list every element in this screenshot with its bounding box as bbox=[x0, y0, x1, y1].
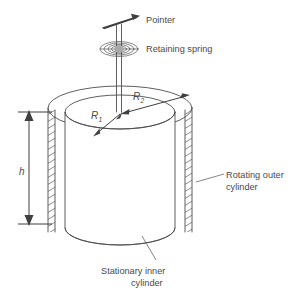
vertical-shaft bbox=[117, 24, 122, 112]
outer-wall-section-left bbox=[42, 106, 62, 251]
outer-radius-symbol-group: R 2 bbox=[133, 91, 145, 104]
outer-radius-symbol: R bbox=[133, 91, 140, 102]
inner-cylinder-body bbox=[65, 112, 175, 245]
inner-radius-symbol-group: R 1 bbox=[91, 110, 103, 123]
outer-wall-section-right bbox=[179, 106, 199, 251]
inner-radius-subscript: 1 bbox=[99, 116, 103, 123]
retaining-spring-label: Retaining spring bbox=[146, 44, 212, 54]
stationary-inner-cylinder-label-line1: Stationary inner bbox=[101, 266, 165, 276]
outer-radius-subscript: 2 bbox=[140, 97, 145, 104]
rotating-outer-cylinder-label-line1: Rotating outer bbox=[226, 170, 284, 180]
rotating-outer-cylinder-leader bbox=[196, 174, 224, 182]
outer-radius-dimension bbox=[121, 93, 191, 114]
diagram-canvas: Pointer Retaining spring Rotating outer … bbox=[0, 0, 298, 299]
needle-pointer bbox=[102, 14, 140, 29]
viscometer-diagram: Pointer Retaining spring Rotating outer … bbox=[0, 0, 298, 299]
pointer-label: Pointer bbox=[146, 15, 175, 25]
inner-radius-symbol: R bbox=[91, 110, 98, 121]
rotating-outer-cylinder-label-line2: cylinder bbox=[226, 182, 258, 192]
inner-cylinder-top-face bbox=[65, 95, 175, 129]
height-symbol-label: h bbox=[19, 166, 25, 177]
retaining-spring-coil bbox=[100, 42, 138, 57]
stationary-inner-cylinder-label-line2: cylinder bbox=[131, 278, 163, 288]
